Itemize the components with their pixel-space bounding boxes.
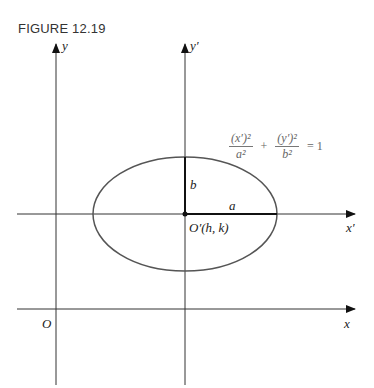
term1-denominator: a²: [236, 147, 246, 162]
translated-origin-label: O′(h, k): [189, 220, 229, 236]
origin-label: O: [42, 316, 51, 332]
term1-numerator: (x′)²: [229, 131, 253, 147]
diagram-canvas: [0, 0, 374, 388]
semi-major-label: a: [229, 198, 236, 214]
term2-fraction: (y′)² b²: [275, 131, 299, 162]
y-prime-axis-label: y′: [190, 38, 199, 54]
term2-numerator: (y′)²: [275, 131, 299, 147]
semi-minor-label: b: [190, 177, 197, 193]
x-axis-label: x: [344, 316, 350, 332]
center-point: [183, 212, 188, 217]
x-prime-axis-label: x′: [346, 220, 355, 236]
plus-sign: +: [261, 139, 268, 154]
ellipse-equation: (x′)² a² + (y′)² b² = 1: [226, 131, 328, 162]
term2-denominator: b²: [282, 147, 292, 162]
term1-fraction: (x′)² a²: [229, 131, 253, 162]
equals-one: = 1: [307, 139, 323, 154]
y-axis-label: y: [62, 38, 68, 54]
